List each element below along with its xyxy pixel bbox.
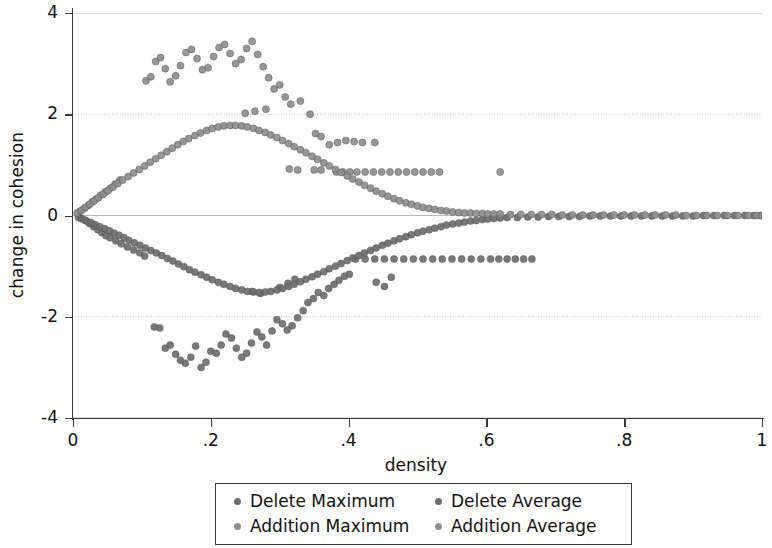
data-point — [473, 217, 480, 224]
x-tick-label: 1 — [740, 430, 772, 450]
data-point — [167, 78, 174, 85]
data-point — [210, 53, 217, 60]
x-tick-mark — [486, 419, 487, 427]
data-point — [326, 141, 333, 148]
legend-marker-icon — [435, 523, 442, 530]
data-point — [458, 256, 465, 263]
data-point — [504, 256, 511, 263]
data-point — [400, 256, 407, 263]
data-point — [373, 279, 380, 286]
data-point — [294, 314, 301, 321]
series-addition-maximum — [76, 38, 503, 215]
data-point — [703, 212, 710, 219]
data-point — [130, 246, 137, 253]
data-point — [209, 276, 216, 283]
data-point — [473, 210, 480, 217]
y-tick-mark — [65, 114, 73, 115]
data-point — [477, 256, 484, 263]
data-point — [276, 81, 283, 88]
data-point — [294, 166, 301, 173]
legend-box: Delete MaximumDelete AverageAddition Max… — [215, 483, 632, 545]
data-point — [495, 256, 502, 263]
data-point — [291, 281, 298, 288]
data-point — [191, 269, 198, 276]
data-point — [662, 211, 669, 218]
data-point — [291, 143, 298, 150]
data-point — [683, 212, 690, 219]
data-point — [269, 327, 276, 334]
data-point — [373, 188, 380, 195]
data-point — [734, 212, 741, 219]
legend-item-label: Delete Maximum — [250, 493, 395, 510]
data-point — [238, 56, 245, 63]
plot-canvas — [73, 13, 762, 418]
data-point — [256, 127, 263, 134]
data-point — [621, 211, 628, 218]
data-point — [162, 65, 169, 72]
data-point — [314, 271, 321, 278]
data-point — [213, 350, 220, 357]
data-point — [396, 197, 403, 204]
data-point — [251, 108, 258, 115]
data-point — [267, 288, 274, 295]
data-point — [371, 139, 378, 146]
data-point — [232, 285, 239, 292]
data-point — [420, 256, 427, 263]
data-point — [403, 168, 410, 175]
data-point — [221, 41, 228, 48]
data-point — [267, 132, 274, 139]
x-tick-mark — [73, 419, 74, 427]
data-point — [244, 288, 251, 295]
data-point — [249, 38, 256, 45]
data-point — [197, 129, 204, 136]
data-point — [262, 106, 269, 113]
data-point — [431, 206, 438, 213]
data-point — [497, 210, 504, 217]
legend-marker-icon — [234, 523, 241, 530]
data-point — [384, 193, 391, 200]
data-point — [263, 342, 270, 349]
data-point — [431, 225, 438, 232]
y-tick-label: -2 — [18, 306, 58, 326]
data-point — [233, 345, 240, 352]
data-point — [693, 212, 700, 219]
data-point — [396, 235, 403, 242]
data-point — [420, 204, 427, 211]
series-delete-average — [75, 212, 762, 296]
data-point — [443, 207, 450, 214]
data-point — [408, 231, 415, 238]
data-point — [338, 260, 345, 267]
legend-item-addition-average[interactable]: Addition Average — [431, 518, 631, 535]
data-point — [461, 219, 468, 226]
data-point — [512, 256, 519, 263]
data-point — [408, 201, 415, 208]
legend-item-addition-maximum[interactable]: Addition Maximum — [216, 518, 431, 535]
data-point — [243, 350, 250, 357]
y-tick-label: 4 — [18, 2, 58, 22]
data-point — [177, 62, 184, 69]
y-tick-mark — [65, 317, 73, 318]
data-point — [448, 256, 455, 263]
x-tick-label: .8 — [602, 430, 646, 450]
data-point — [411, 168, 418, 175]
data-point — [244, 123, 251, 130]
data-point — [248, 340, 255, 347]
data-point — [289, 322, 296, 329]
data-point — [520, 256, 527, 263]
data-point — [507, 211, 514, 218]
data-point — [124, 243, 131, 250]
data-point — [243, 45, 250, 52]
legend-item-delete-average[interactable]: Delete Average — [431, 493, 631, 510]
data-point — [672, 211, 679, 218]
data-point — [311, 166, 318, 173]
series-delete-maximum — [78, 215, 536, 371]
data-point — [205, 64, 212, 71]
legend-item-delete-maximum[interactable]: Delete Maximum — [216, 493, 431, 510]
data-point — [386, 168, 393, 175]
data-point — [517, 211, 524, 218]
data-point — [449, 208, 456, 215]
data-point — [334, 139, 341, 146]
data-point — [439, 256, 446, 263]
x-axis-line — [72, 418, 764, 419]
data-point — [538, 211, 545, 218]
